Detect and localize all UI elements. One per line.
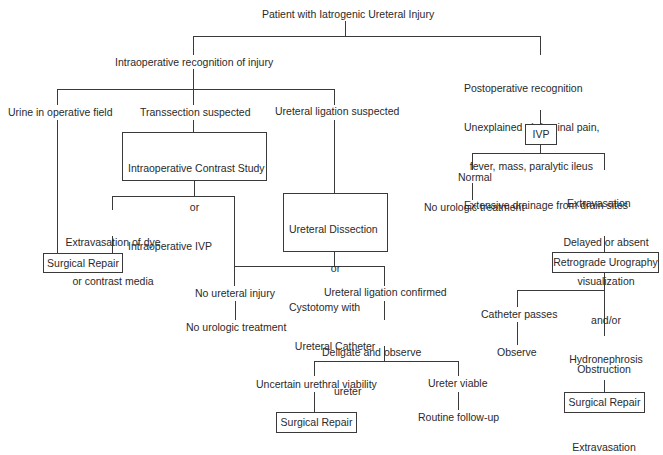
- node-catheter-passes: Catheter passes: [481, 308, 557, 321]
- node-normal: Normal: [458, 171, 492, 184]
- node-uncertain-urethral-viability: Uncertain urethral viability: [256, 378, 377, 391]
- node-intraoperative-recognition: Intraoperative recognition of injury: [115, 56, 273, 69]
- dye-line-1: Extravasation of dye: [62, 236, 164, 249]
- ext-line-1: Extravasation: [560, 197, 652, 210]
- deligate-line-1: Deligate and observe: [322, 346, 421, 359]
- ext-line-3: visualization: [560, 275, 652, 288]
- box-surgical-repair-2: Surgical Repair: [276, 412, 357, 433]
- node-no-urologic-treatment-1: No urologic treatment: [186, 321, 286, 334]
- ext-line-4: and/or: [560, 314, 652, 327]
- obs-line-3: Extravasation: [570, 441, 638, 454]
- dissection-line-2: or: [289, 262, 382, 275]
- node-routine-follow-up: Routine follow-up: [418, 411, 499, 424]
- node-no-urologic-treatment-2: No urologic treatment: [424, 201, 524, 214]
- box-surgical-repair-3: Surgical Repair: [564, 392, 645, 413]
- obs-line-1: Obstruction: [570, 363, 638, 376]
- node-observe: Observe: [497, 346, 537, 359]
- node-no-ureteral-injury: No ureteral injury: [195, 287, 275, 300]
- box-retrograde-urography: Retrograde Urography: [552, 252, 659, 273]
- ext-line-2: Delayed or absent: [560, 236, 652, 249]
- box-intraoperative-contrast-study: Intraoperative Contrast Study or Intraop…: [122, 132, 267, 181]
- dye-line-2: or contrast media: [62, 275, 164, 288]
- dissection-line-3: Cystotomy with: [289, 301, 382, 314]
- postop-line-1: Postoperative recognition: [464, 82, 628, 95]
- node-ureteral-ligation-suspected: Ureteral ligation suspected: [275, 105, 399, 118]
- node-transsection-suspected: Transsection suspected: [140, 106, 251, 119]
- node-root: Patient with Iatrogenic Ureteral Injury: [262, 8, 434, 21]
- node-deligate-and-observe: Deligate and observe ureter: [322, 320, 421, 424]
- box-ureteral-dissection: Ureteral Dissection or Cystotomy with Ur…: [283, 193, 388, 252]
- node-ureter-viable: Ureter viable: [428, 377, 488, 390]
- node-urine-in-operative-field: Urine in operative field: [8, 106, 112, 119]
- box-surgical-repair-1: Surgical Repair: [43, 253, 123, 273]
- dissection-line-1: Ureteral Dissection: [289, 223, 382, 236]
- contrast-line-1: Intraoperative Contrast Study: [128, 162, 261, 175]
- node-ureteral-ligation-confirmed: Ureteral ligation confirmed: [324, 286, 447, 299]
- box-ivp: IVP: [525, 124, 557, 145]
